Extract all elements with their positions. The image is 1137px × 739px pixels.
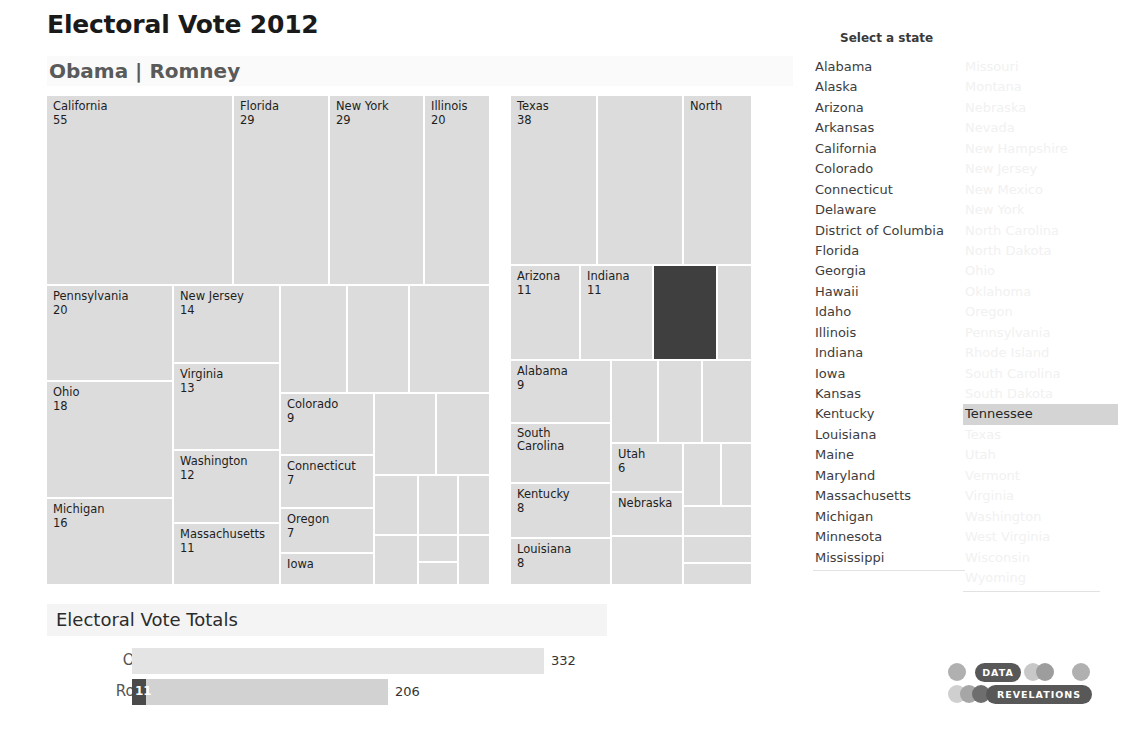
state-list-item[interactable]: Iowa bbox=[813, 364, 968, 384]
treemap-cell[interactable]: Illinois20 bbox=[425, 96, 491, 286]
state-list-item[interactable]: Kentucky bbox=[813, 404, 968, 424]
treemap-cell[interactable]: Louisiana8 bbox=[511, 539, 612, 586]
state-list-item[interactable]: West Virginia bbox=[963, 527, 1118, 547]
treemap-cell[interactable]: California55 bbox=[47, 96, 234, 286]
treemap-cell[interactable]: Texas38 bbox=[511, 96, 598, 266]
state-list-item[interactable]: Georgia bbox=[813, 261, 968, 281]
treemap-cell[interactable] bbox=[718, 266, 753, 361]
state-list-item[interactable]: Minnesota bbox=[813, 527, 968, 547]
state-list-item[interactable]: District of Columbia bbox=[813, 221, 968, 241]
treemap-cell[interactable] bbox=[684, 444, 722, 507]
state-list-item[interactable]: Texas bbox=[963, 425, 1118, 445]
state-list-item[interactable]: Wisconsin bbox=[963, 548, 1118, 568]
state-list-item[interactable]: Michigan bbox=[813, 507, 968, 527]
treemap-cell[interactable]: Virginia13 bbox=[174, 364, 281, 451]
treemap-cell[interactable] bbox=[419, 563, 459, 586]
treemap-cell[interactable] bbox=[419, 476, 459, 536]
state-list-item[interactable]: Ohio bbox=[963, 261, 1118, 281]
treemap-cell[interactable]: Massachusetts11 bbox=[174, 524, 281, 586]
treemap-cell[interactable]: Indiana11 bbox=[581, 266, 654, 361]
state-list-item[interactable]: Arizona bbox=[813, 98, 968, 118]
treemap-cell[interactable]: New Jersey14 bbox=[174, 286, 281, 364]
state-list-item[interactable]: Florida bbox=[813, 241, 968, 261]
treemap-cell[interactable] bbox=[410, 286, 491, 394]
treemap-cell[interactable]: Nebraska bbox=[612, 493, 684, 537]
state-list-item[interactable]: Virginia bbox=[963, 486, 1118, 506]
state-list-item[interactable]: Vermont bbox=[963, 466, 1118, 486]
treemap-cell[interactable] bbox=[703, 361, 753, 444]
state-list-item[interactable]: Missouri bbox=[963, 57, 1118, 77]
state-list-item[interactable]: Rhode Island bbox=[963, 343, 1118, 363]
state-list-item[interactable]: Pennsylvania bbox=[963, 323, 1118, 343]
state-list-item[interactable]: Maryland bbox=[813, 466, 968, 486]
state-list-item[interactable]: Alaska bbox=[813, 77, 968, 97]
treemap-cell[interactable]: North bbox=[684, 96, 753, 266]
treemap-cell[interactable] bbox=[459, 536, 491, 586]
state-list-item[interactable]: Connecticut bbox=[813, 180, 968, 200]
treemap-cell[interactable] bbox=[612, 361, 659, 444]
treemap-cell[interactable] bbox=[419, 536, 459, 563]
state-list-item[interactable]: New Jersey bbox=[963, 159, 1118, 179]
state-list-item[interactable]: Montana bbox=[963, 77, 1118, 97]
treemap-cell[interactable] bbox=[659, 361, 703, 444]
treemap-cell[interactable]: Ohio18 bbox=[47, 382, 174, 499]
bar-selected-segment[interactable]: 11 bbox=[132, 679, 146, 705]
state-list-item[interactable]: North Dakota bbox=[963, 241, 1118, 261]
state-list-item[interactable]: Delaware bbox=[813, 200, 968, 220]
treemap-cell[interactable]: Washington12 bbox=[174, 451, 281, 524]
treemap-cell[interactable] bbox=[654, 266, 718, 361]
treemap-cell[interactable]: Kentucky8 bbox=[511, 484, 612, 539]
state-list-item[interactable]: New York bbox=[963, 200, 1118, 220]
treemap-cell[interactable] bbox=[684, 564, 753, 586]
treemap-cell[interactable] bbox=[598, 96, 684, 266]
treemap-cell[interactable]: South Carolina bbox=[511, 424, 612, 484]
state-list-item[interactable]: Alabama bbox=[813, 57, 968, 77]
state-list-item[interactable]: Washington bbox=[963, 507, 1118, 527]
treemap-cell[interactable]: Florida29 bbox=[234, 96, 330, 286]
treemap-cell[interactable] bbox=[375, 394, 437, 476]
state-list-item[interactable]: Wyoming bbox=[963, 568, 1118, 588]
state-list-item[interactable]: Arkansas bbox=[813, 118, 968, 138]
state-list-column-2[interactable]: MissouriMontanaNebraskaNevadaNew Hampshi… bbox=[963, 57, 1118, 588]
state-list-item[interactable]: Utah bbox=[963, 445, 1118, 465]
treemap-cell[interactable] bbox=[459, 476, 491, 536]
state-list-item[interactable]: New Mexico bbox=[963, 180, 1118, 200]
state-list-item[interactable]: Idaho bbox=[813, 302, 968, 322]
treemap-cell[interactable] bbox=[375, 536, 419, 586]
treemap-cell[interactable]: Michigan16 bbox=[47, 499, 174, 586]
state-list-item[interactable]: Kansas bbox=[813, 384, 968, 404]
treemap-cell[interactable] bbox=[612, 537, 684, 586]
state-list-item[interactable]: California bbox=[813, 139, 968, 159]
state-list-item[interactable]: Colorado bbox=[813, 159, 968, 179]
state-list-item[interactable]: Illinois bbox=[813, 323, 968, 343]
treemap-cell[interactable] bbox=[684, 507, 753, 537]
state-list-item[interactable]: Indiana bbox=[813, 343, 968, 363]
treemap-cell[interactable] bbox=[684, 537, 753, 564]
state-list-item[interactable]: Tennessee bbox=[963, 404, 1118, 424]
treemap-cell[interactable]: Pennsylvania20 bbox=[47, 286, 174, 382]
treemap-cell[interactable]: Oregon7 bbox=[281, 509, 375, 554]
state-list-item[interactable]: Hawaii bbox=[813, 282, 968, 302]
state-list-item[interactable]: Maine bbox=[813, 445, 968, 465]
state-list-item[interactable]: North Carolina bbox=[963, 221, 1118, 241]
treemap-cell[interactable]: Connecticut7 bbox=[281, 456, 375, 509]
state-list-item[interactable]: South Dakota bbox=[963, 384, 1118, 404]
treemap-cell[interactable]: Colorado9 bbox=[281, 394, 375, 456]
treemap-cell[interactable] bbox=[348, 286, 410, 394]
state-list-item[interactable]: Oregon bbox=[963, 302, 1118, 322]
state-list-item[interactable]: Nevada bbox=[963, 118, 1118, 138]
treemap-cell[interactable] bbox=[437, 394, 491, 476]
treemap-cell[interactable]: Arizona11 bbox=[511, 266, 581, 361]
state-list-item[interactable]: Nebraska bbox=[963, 98, 1118, 118]
state-list-item[interactable]: Oklahoma bbox=[963, 282, 1118, 302]
state-list-item[interactable]: Mississippi bbox=[813, 548, 968, 568]
treemap-cell[interactable] bbox=[375, 476, 419, 536]
state-list-item[interactable]: South Carolina bbox=[963, 364, 1118, 384]
treemap-cell[interactable]: Utah6 bbox=[612, 444, 684, 493]
state-list-item[interactable]: Louisiana bbox=[813, 425, 968, 445]
treemap-cell[interactable]: Alabama9 bbox=[511, 361, 612, 424]
state-list-column-1[interactable]: AlabamaAlaskaArizonaArkansasCaliforniaCo… bbox=[813, 57, 968, 568]
treemap-cell[interactable]: New York29 bbox=[330, 96, 425, 286]
treemap-cell[interactable] bbox=[281, 286, 348, 394]
state-list-item[interactable]: New Hampshire bbox=[963, 139, 1118, 159]
